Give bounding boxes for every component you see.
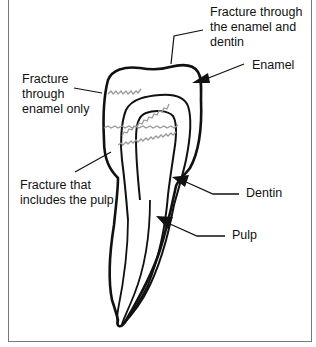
arrow-pulp [170,224,225,236]
fracture-line-crown-mid [104,125,178,128]
label-enamel: Enamel [252,58,294,73]
label-fracture-pulp: Fracture that includes the pulp [20,178,114,208]
arrowhead-enamel [192,73,210,83]
tooth-diagram [0,0,316,347]
label-dentin: Dentin [246,186,282,201]
label-pulp: Pulp [232,228,257,243]
fracture-line-enamel-only [108,89,141,94]
label-fracture-enamel-dentin: Fracture through the enamel and dentin [210,5,302,50]
leader-fracture-enamel-dentin [171,30,203,64]
label-fracture-enamel-only: Fracture through enamel only [22,72,89,117]
root-inner-left [117,220,128,326]
arrow-enamel [206,64,244,79]
leader-fracture-pulp [75,152,111,172]
arrow-dentin [186,182,239,194]
fracture-line-pulp [118,132,176,145]
fracture-line-enamel-dentin [122,104,169,136]
